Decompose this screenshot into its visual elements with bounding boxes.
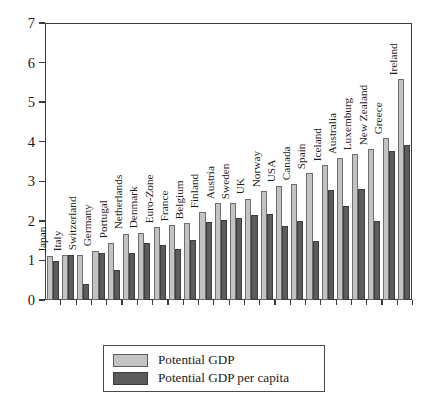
legend-swatch-potential-gdp-per-capita	[113, 372, 148, 385]
category-label: Finland	[189, 174, 200, 209]
x-axis-tick	[106, 300, 107, 305]
bar-potential-gdp-per-capita	[358, 189, 364, 300]
bar-group: Italy	[62, 23, 74, 300]
bar-potential-gdp-per-capita	[313, 241, 319, 300]
category-label: UK	[235, 178, 246, 194]
category-label: Greece	[373, 102, 384, 134]
x-axis-tick	[412, 300, 413, 305]
x-axis-tick	[76, 300, 77, 305]
x-axis-tick	[320, 300, 321, 305]
x-axis-tick	[244, 300, 245, 305]
bar-group: New Zealand	[368, 23, 380, 300]
category-label: USA	[266, 159, 277, 182]
legend-swatch-potential-gdp	[113, 354, 148, 367]
x-axis-tick	[91, 300, 92, 305]
x-axis-tick	[305, 300, 306, 305]
x-axis-tick	[259, 300, 260, 305]
x-axis-tick	[274, 300, 275, 305]
bar-group: Austria	[215, 23, 227, 300]
legend-item-potential-gdp-per-capita: Potential GDP per capita	[113, 370, 289, 386]
category-label: Spain	[296, 143, 307, 169]
bar-group: Euro-Zone	[154, 23, 166, 300]
bar-group: Germany	[92, 23, 104, 300]
y-axis-tick-label: 0	[28, 290, 35, 310]
legend-label-potential-gdp: Potential GDP	[158, 353, 235, 367]
bar-group: Iceland	[322, 23, 334, 300]
y-axis-tick-label: 4	[28, 132, 35, 152]
bar-potential-gdp-per-capita	[389, 151, 395, 300]
bar-group: France	[169, 23, 181, 300]
x-axis-tick	[290, 300, 291, 305]
y-axis-tick-label: 3	[28, 171, 35, 191]
bar-potential-gdp-per-capita	[175, 249, 181, 300]
x-axis	[45, 300, 412, 308]
x-axis-tick	[60, 300, 61, 305]
y-axis-tick-label: 5	[28, 92, 35, 112]
category-label: Australia	[327, 113, 338, 154]
y-axis-tick-label: 6	[28, 53, 35, 73]
category-label: Germany	[82, 205, 93, 247]
bar-potential-gdp-per-capita	[206, 222, 212, 300]
x-axis-tick	[152, 300, 153, 305]
bar-potential-gdp-per-capita	[343, 206, 349, 300]
bar-potential-gdp-per-capita	[251, 215, 257, 300]
x-axis-tick	[121, 300, 122, 305]
category-label: Iceland	[311, 128, 322, 161]
category-label: Denmark	[128, 187, 139, 229]
bar-group: Luxemburg	[352, 23, 364, 300]
bar-potential-gdp-per-capita	[297, 221, 303, 300]
bar-potential-gdp-per-capita	[282, 226, 288, 300]
bar-potential-gdp-per-capita	[114, 270, 120, 300]
x-axis-tick	[366, 300, 367, 305]
category-label: Canada	[281, 146, 292, 180]
bar-potential-gdp-per-capita	[236, 218, 242, 300]
category-label: Norway	[250, 151, 261, 187]
bar-potential-gdp-per-capita	[53, 261, 59, 300]
bar-group: Portugal	[108, 23, 120, 300]
bar-potential-gdp-per-capita	[328, 190, 334, 300]
y-axis-tick-label: 1	[28, 250, 35, 270]
bar-potential-gdp-per-capita	[160, 245, 166, 300]
bar-group: Ireland	[398, 23, 410, 300]
legend-item-potential-gdp: Potential GDP	[113, 352, 235, 368]
bar-potential-gdp-per-capita	[68, 255, 74, 300]
category-label: Italy	[52, 231, 63, 252]
bar-group: Australia	[337, 23, 349, 300]
y-axis: 01234567	[0, 0, 45, 405]
bar-potential-gdp-per-capita	[144, 243, 150, 300]
legend-label-potential-gdp-per-capita: Potential GDP per capita	[158, 371, 289, 385]
bar-potential-gdp-per-capita	[190, 240, 196, 300]
category-label: Netherlands	[113, 175, 124, 230]
x-axis-tick	[381, 300, 382, 305]
x-axis-tick	[229, 300, 230, 305]
x-axis-tick	[351, 300, 352, 305]
bar-group: Denmark	[138, 23, 150, 300]
x-axis-tick	[397, 300, 398, 305]
category-label: Euro-Zone	[143, 174, 154, 223]
category-label: Luxemburg	[342, 98, 353, 151]
y-axis-tick-label: 7	[28, 13, 35, 33]
x-axis-tick	[167, 300, 168, 305]
category-label: Portugal	[97, 200, 108, 238]
x-axis-tick	[137, 300, 138, 305]
x-axis-tick	[336, 300, 337, 305]
bar-potential-gdp-per-capita	[129, 253, 135, 300]
bar-potential-gdp-per-capita	[404, 145, 410, 300]
bar-potential-gdp-per-capita	[99, 253, 105, 300]
x-axis-tick	[198, 300, 199, 305]
bar-group: Switzerland	[77, 23, 89, 300]
bar-group: Spain	[306, 23, 318, 300]
bar-chart: 01234567 JapanItalySwitzerlandGermanyPor…	[0, 0, 429, 405]
bar-potential-gdp-per-capita	[221, 220, 227, 300]
chart-legend: Potential GDP Potential GDP per capita	[103, 345, 325, 392]
category-label: Japan	[36, 227, 47, 253]
category-label: Switzerland	[67, 197, 78, 251]
bar-group: Sweden	[230, 23, 242, 300]
category-label: Ireland	[388, 43, 399, 75]
bar-potential-gdp-per-capita	[374, 221, 380, 300]
x-axis-tick	[183, 300, 184, 305]
bar-potential-gdp-per-capita	[83, 284, 89, 300]
y-axis-tick-label: 2	[28, 211, 35, 231]
x-axis-tick	[213, 300, 214, 305]
bar-group: Netherlands	[123, 23, 135, 300]
